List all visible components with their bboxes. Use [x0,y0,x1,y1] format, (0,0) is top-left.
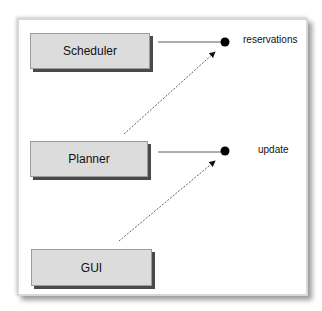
connectors [0,0,322,311]
interface-label-reservations: reservations [243,34,297,45]
dependency-arrow-planner [124,52,215,134]
interface-label-update: update [258,144,289,155]
interface-dot-update-icon [221,147,230,156]
interface-dot-reservations-icon [221,38,230,47]
dependency-arrow-gui [119,161,215,241]
